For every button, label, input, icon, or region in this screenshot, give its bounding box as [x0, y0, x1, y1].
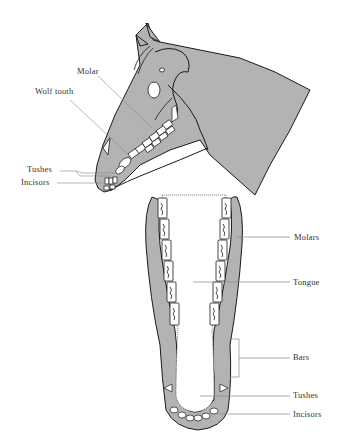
label-incisors: Incisors [21, 177, 50, 187]
eye-icon [160, 68, 165, 72]
label-bars: Bars [293, 352, 309, 362]
bars-bracket [230, 339, 290, 377]
label-incisors-jaw: Incisors [293, 409, 322, 419]
label-wolf-tooth: Wolf tooth [35, 86, 73, 96]
head-silhouette [95, 23, 310, 195]
label-tushes: Tushes [27, 164, 52, 174]
horse-head-side-view [57, 23, 310, 195]
label-tushes-jaw: Tushes [293, 390, 318, 400]
label-tongue: Tongue [293, 277, 320, 287]
label-molars: Molars [294, 232, 319, 242]
skull-opening [148, 82, 160, 98]
label-molar: Molar [77, 66, 99, 76]
lower-jaw-top-view [146, 195, 290, 430]
horse-dental-diagram [0, 0, 345, 437]
